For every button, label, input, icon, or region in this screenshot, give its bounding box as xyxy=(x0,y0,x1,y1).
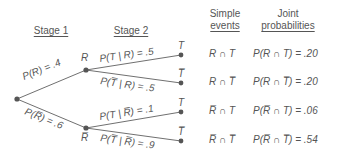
node-R xyxy=(83,67,88,72)
joint-probabilities-line2: probabilities xyxy=(255,20,321,32)
event-2: R ∩ T̅ xyxy=(209,76,235,87)
event-3: R̅ ∩ T xyxy=(209,105,235,116)
node-T2 xyxy=(179,110,184,115)
joint-prob-4: P(R̅ ∩ T̅) = .54 xyxy=(253,134,318,145)
node-label-T1: T xyxy=(178,40,184,51)
node-T1 xyxy=(179,53,184,58)
label-pTbar-given-Rbar: P(T̅ | R̅) = .9 xyxy=(100,132,156,151)
label-pTbar-given-R: P(T̅ | R) = .5 xyxy=(100,75,156,94)
event-1: R ∩ T xyxy=(209,48,235,59)
node-Tbar1 xyxy=(179,81,184,86)
simple-events-header: Simple events xyxy=(205,8,245,32)
simple-events-line2: events xyxy=(205,20,245,32)
label-pRbar: P(R̅) = .6 xyxy=(23,106,65,131)
joint-prob-2: P(R ∩ T̅) = .20 xyxy=(253,76,318,87)
stage1-header: Stage 1 xyxy=(32,25,70,37)
node-Rbar xyxy=(83,125,88,130)
label-pT-given-Rbar: P(T | R̅) = .1 xyxy=(99,103,155,122)
node-label-T2: T xyxy=(178,97,184,108)
stage2-header: Stage 2 xyxy=(112,25,150,37)
joint-prob-3: P(R̅ ∩ T) = .06 xyxy=(253,105,318,116)
node-label-Tbar2: T̅ xyxy=(178,126,184,137)
joint-probabilities-header: Joint probabilities xyxy=(255,8,321,32)
joint-prob-1: P(R ∩ T) = .20 xyxy=(253,48,318,59)
root-node xyxy=(14,96,19,101)
event-4: R̅ ∩ T̅ xyxy=(209,134,235,145)
node-label-Rbar: R̅ xyxy=(81,132,88,143)
label-pR: P(R) = .4 xyxy=(21,56,63,81)
node-Tbar2 xyxy=(179,139,184,144)
joint-probabilities-line1: Joint xyxy=(255,8,321,20)
node-label-Tbar1: T̅ xyxy=(178,68,184,79)
label-pT-given-R: P(T | R) = .5 xyxy=(99,45,155,64)
node-label-R: R xyxy=(81,52,88,63)
simple-events-line1: Simple xyxy=(205,8,245,20)
